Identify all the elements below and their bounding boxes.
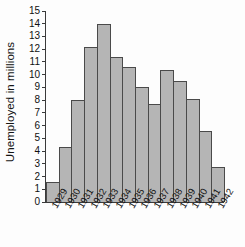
y-axis-tick-mark xyxy=(42,151,45,152)
y-axis-title-label: Unemployed in millions xyxy=(4,42,16,162)
y-axis-tick-label: 10 xyxy=(29,70,42,80)
bar xyxy=(122,67,136,202)
x-axis-tick-label: 1931 xyxy=(76,204,85,210)
x-axis-tick: 1932 xyxy=(84,204,97,247)
x-axis-tick-label: 1933 xyxy=(101,204,110,210)
x-axis-tick: 1937 xyxy=(148,204,161,247)
x-axis-tick-label: 1941 xyxy=(203,204,212,210)
y-axis-tick-mark xyxy=(42,125,45,126)
y-axis-tick-label: 12 xyxy=(29,44,42,54)
bar-series xyxy=(46,11,224,202)
plot-area: 1514131211109876543210 xyxy=(45,11,224,203)
y-axis-tick-mark xyxy=(42,36,45,37)
y-axis-tick-label: 13 xyxy=(29,31,42,41)
x-axis-tick-label: 1937 xyxy=(152,204,161,210)
y-axis-tick-mark xyxy=(42,176,45,177)
x-axis-tick-label: 1935 xyxy=(127,204,136,210)
x-axis-tick-label: 1932 xyxy=(89,204,98,210)
y-axis-tick-label: 2 xyxy=(34,172,42,182)
x-axis-tick: 1939 xyxy=(173,204,186,247)
y-axis-tick-label: 3 xyxy=(34,159,42,169)
y-axis-tick-mark xyxy=(42,23,45,24)
y-axis-tick-mark xyxy=(42,49,45,50)
unemployment-bar-chart: Unemployed in millions 15141312111098765… xyxy=(0,0,245,247)
y-axis-tick-label: 14 xyxy=(29,19,42,29)
x-axis-tick: 1936 xyxy=(135,204,148,247)
y-axis-tick-label: 15 xyxy=(29,6,42,16)
bar xyxy=(97,24,111,202)
y-axis-tick-label: 11 xyxy=(30,57,42,67)
x-axis-tick-label: 1942 xyxy=(216,204,225,210)
bar xyxy=(135,87,149,202)
y-axis-tick-label: 9 xyxy=(34,82,42,92)
y-axis-tick-label: 7 xyxy=(34,108,42,118)
x-axis-tick-label: 1929 xyxy=(50,204,59,210)
y-axis-tick-label: 4 xyxy=(34,146,42,156)
x-axis-tick: 1938 xyxy=(160,204,173,247)
y-axis-tick-mark xyxy=(42,138,45,139)
y-axis-tick-mark xyxy=(42,163,45,164)
x-axis-tick: 1930 xyxy=(59,204,72,247)
x-axis-tick-label: 1934 xyxy=(114,204,123,210)
bar xyxy=(84,47,98,202)
y-axis-tick-label: 1 xyxy=(34,184,42,194)
y-axis-tick-label: 6 xyxy=(34,121,42,131)
y-axis-tick-mark xyxy=(42,189,45,190)
x-axis-tick-label: 1930 xyxy=(63,204,72,210)
x-axis-tick: 1929 xyxy=(46,204,59,247)
y-axis-tick-mark xyxy=(42,202,45,203)
x-axis-tick: 1933 xyxy=(97,204,110,247)
x-axis-tick-label: 1940 xyxy=(190,204,199,210)
y-axis-tick-mark xyxy=(42,11,45,12)
x-axis-tick-label: 1939 xyxy=(178,204,187,210)
y-axis-tick-mark xyxy=(42,100,45,101)
x-axis-tick: 1940 xyxy=(186,204,199,247)
bar xyxy=(110,57,124,202)
x-axis-tick: 1942 xyxy=(211,204,224,247)
x-axis-labels: 1929193019311932193319341935193619371938… xyxy=(46,204,224,247)
x-axis-tick: 1934 xyxy=(110,204,123,247)
x-axis-tick: 1941 xyxy=(199,204,212,247)
y-axis-tick-mark xyxy=(42,87,45,88)
x-axis-tick-label: 1936 xyxy=(139,204,148,210)
bar xyxy=(160,70,174,202)
y-axis-tick-label: 8 xyxy=(34,95,42,105)
y-axis-title: Unemployed in millions xyxy=(0,0,20,204)
y-axis-tick-mark xyxy=(42,112,45,113)
x-axis-tick-label: 1938 xyxy=(165,204,174,210)
y-axis-tick-mark xyxy=(42,61,45,62)
bar xyxy=(173,81,187,202)
x-axis-tick: 1931 xyxy=(71,204,84,247)
y-axis-tick-label: 5 xyxy=(34,133,42,143)
x-axis-tick: 1935 xyxy=(122,204,135,247)
y-axis-tick-label: 0 xyxy=(34,197,42,207)
y-axis-tick-mark xyxy=(42,74,45,75)
